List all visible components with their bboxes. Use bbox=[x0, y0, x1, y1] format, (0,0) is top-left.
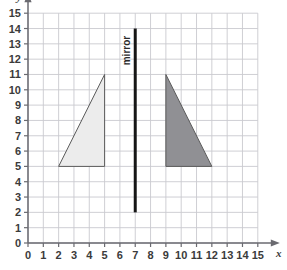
x-tick-label: 7 bbox=[132, 249, 138, 261]
y-tick-label: 3 bbox=[15, 191, 21, 203]
y-axis-tick-labels: 0123456789101112131415 bbox=[9, 7, 22, 249]
y-tick-label: 14 bbox=[9, 23, 22, 35]
x-tick-label: 13 bbox=[221, 249, 233, 261]
x-axis-tick-labels: 0123456789101112131415 bbox=[25, 249, 264, 261]
x-tick-label: 8 bbox=[147, 249, 153, 261]
x-tick-label: 0 bbox=[25, 249, 31, 261]
x-tick-label: 12 bbox=[206, 249, 218, 261]
y-tick-label: 12 bbox=[9, 53, 21, 65]
axis-lines bbox=[24, 0, 280, 247]
y-tick-label: 11 bbox=[9, 68, 21, 80]
x-tick-label: 15 bbox=[252, 249, 264, 261]
y-tick-label: 8 bbox=[15, 114, 21, 126]
reflection-diagram: 0123456789101112131415 01234567891011121… bbox=[0, 0, 287, 270]
x-tick-label: 2 bbox=[56, 249, 62, 261]
x-tick-label: 14 bbox=[236, 249, 249, 261]
y-tick-label: 10 bbox=[9, 84, 21, 96]
x-tick-label: 10 bbox=[175, 249, 187, 261]
mirror-label-text: mirror bbox=[121, 36, 132, 66]
y-tick-label: 0 bbox=[15, 237, 21, 249]
x-tick-label: 4 bbox=[86, 249, 93, 261]
mirror-label: mirror bbox=[121, 36, 132, 66]
y-tick-label: 1 bbox=[15, 222, 21, 234]
y-tick-label: 4 bbox=[15, 176, 22, 188]
x-axis-name: x bbox=[275, 247, 282, 259]
x-tick-label: 6 bbox=[117, 249, 123, 261]
coordinate-plot: 0123456789101112131415 01234567891011121… bbox=[0, 0, 287, 270]
y-tick-label: 6 bbox=[15, 145, 21, 157]
grid-lines bbox=[28, 13, 258, 243]
y-axis-name: y bbox=[15, 0, 22, 3]
x-tick-label: 9 bbox=[163, 249, 169, 261]
x-tick-label: 3 bbox=[71, 249, 77, 261]
axis-names: xy bbox=[15, 0, 282, 259]
x-tick-label: 5 bbox=[102, 249, 108, 261]
y-tick-label: 13 bbox=[9, 38, 21, 50]
y-tick-label: 9 bbox=[15, 99, 21, 111]
x-tick-label: 1 bbox=[40, 249, 46, 261]
y-tick-label: 15 bbox=[9, 7, 21, 19]
y-tick-label: 7 bbox=[15, 130, 21, 142]
y-tick-label: 5 bbox=[15, 160, 21, 172]
y-tick-label: 2 bbox=[15, 206, 21, 218]
x-tick-label: 11 bbox=[191, 249, 203, 261]
